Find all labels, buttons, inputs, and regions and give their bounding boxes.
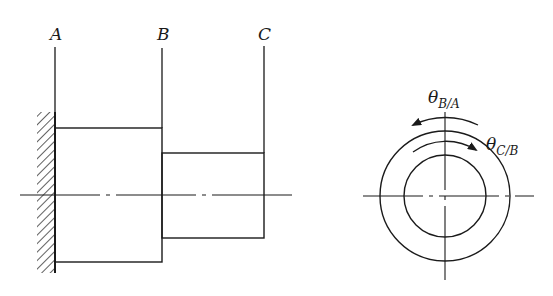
theta-cb-label: θC/B	[486, 134, 518, 158]
diagram-canvas: A B C θB/A θC/B	[0, 0, 553, 296]
theta-ba-label: θB/A	[428, 87, 460, 111]
fixed-wall-hatch	[37, 112, 55, 273]
label-b: B	[156, 24, 170, 44]
label-a: A	[48, 24, 62, 44]
side-view: A B C	[20, 24, 292, 273]
end-view: θB/A θC/B	[363, 87, 534, 280]
label-c: C	[258, 24, 271, 44]
